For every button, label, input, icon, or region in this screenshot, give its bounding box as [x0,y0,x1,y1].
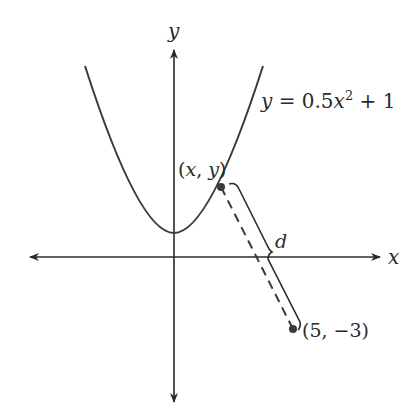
equation-label: y = 0.5x2 + 1 [260,88,395,113]
equation-y: y [260,89,273,113]
sep: , [196,158,208,180]
point-5-neg3-label: (5, −3) [302,319,369,341]
point-xy-label: (x, y) [178,158,226,180]
distance-label: d [275,230,287,252]
point-y: y [207,158,219,180]
y-axis-label: y [167,19,180,43]
equation-rest: + 1 [353,89,395,113]
point-x: x [185,158,196,180]
x-axis-label: x [388,245,399,269]
equation-exponent: 2 [345,88,353,103]
lparen: ( [178,158,185,180]
point-on-curve [217,183,225,191]
rparen: ) [219,158,226,180]
equation-eq: = 0.5 [272,89,333,113]
diagram-svg: y x y = 0.5x2 + 1 (x, y) (5, −3) d [0,0,418,419]
distance-dashed-segment [221,187,293,329]
equation-x: x [334,89,345,113]
diagram-canvas: y x y = 0.5x2 + 1 (x, y) (5, −3) d [0,0,418,419]
point-5-neg3 [289,325,297,333]
